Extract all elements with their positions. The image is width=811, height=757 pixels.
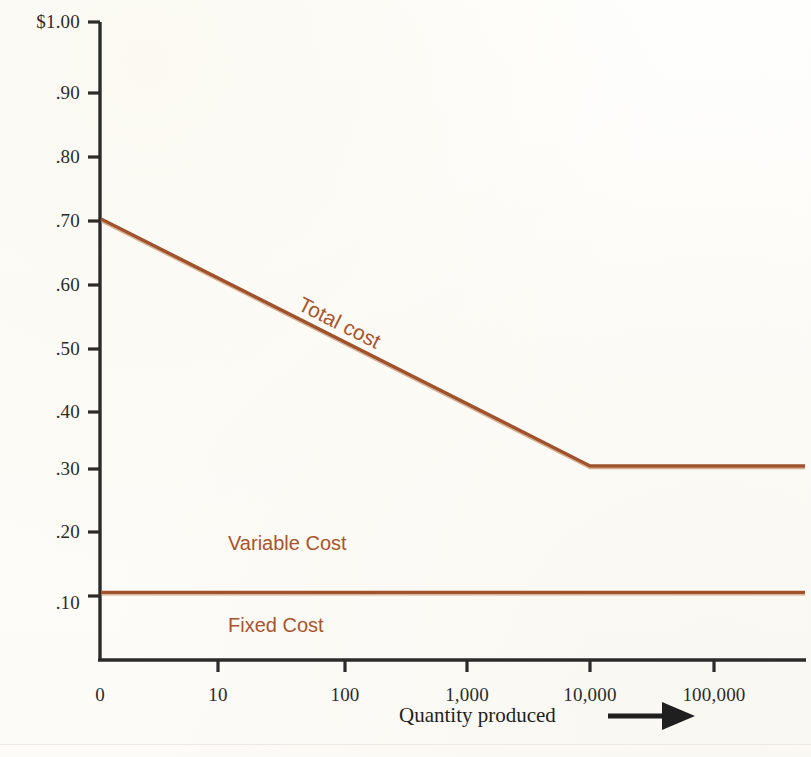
y-tick-label-0-30: .30 bbox=[8, 458, 80, 480]
fixed-cost-label: Fixed Cost bbox=[228, 614, 324, 637]
arrow-head bbox=[662, 702, 695, 730]
total-cost-line bbox=[101, 219, 805, 466]
y-tick-label-1-00: $1.00 bbox=[8, 11, 80, 33]
page-bottom-rule bbox=[0, 744, 811, 745]
series-fixed-cost bbox=[101, 593, 805, 596]
x-tick-label-0: 0 bbox=[70, 684, 130, 706]
variable-cost-label: Variable Cost bbox=[228, 532, 347, 555]
x-axis-title: Quantity produced bbox=[399, 703, 556, 728]
series-total-cost bbox=[101, 219, 805, 469]
y-tick-label-0-90: .90 bbox=[8, 82, 80, 104]
x-tick-label-100000: 100,000 bbox=[662, 684, 766, 706]
y-tick-label-0-20: .20 bbox=[8, 521, 80, 543]
x-tick-label-100: 100 bbox=[315, 684, 375, 706]
y-tick-label-0-60: .60 bbox=[8, 274, 80, 296]
axis-group bbox=[88, 22, 806, 672]
x-tick-label-10: 10 bbox=[188, 684, 248, 706]
quantity-produced-arrow-icon bbox=[608, 702, 695, 730]
cost-curve-chart bbox=[0, 0, 811, 757]
total-cost-line-highlight bbox=[101, 222, 805, 469]
y-tick-label-0-10: .10 bbox=[8, 592, 80, 614]
chart-page: $1.00 .90 .80 .70 .60 .50 .40 .30 .20 .1… bbox=[0, 0, 811, 757]
y-tick-label-0-80: .80 bbox=[8, 146, 80, 168]
y-tick-label-0-50: .50 bbox=[8, 338, 80, 360]
y-tick-label-0-70: .70 bbox=[8, 210, 80, 232]
y-tick-label-0-40: .40 bbox=[8, 401, 80, 423]
x-tick-label-10000: 10,000 bbox=[545, 684, 635, 706]
